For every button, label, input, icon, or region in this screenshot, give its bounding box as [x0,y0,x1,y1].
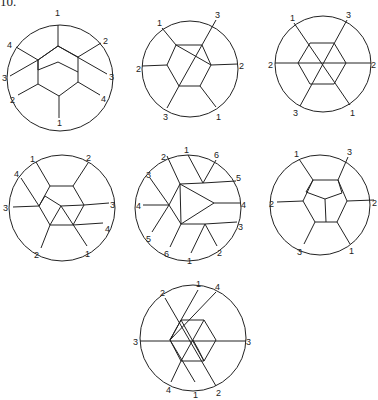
label: 1 [290,13,295,23]
label: 2 [34,250,39,260]
label: 3 [110,200,115,210]
diagram-2: 1 3 2 1 3 2 [136,10,244,122]
label: 1 [294,149,299,159]
label: 1 [157,18,162,28]
diagram-1: 1 2 3 4 1 2 3 4 [2,8,114,131]
diagram-canvas: 1 2 3 4 1 2 3 4 1 3 2 1 3 2 1 3 2 1 [0,0,378,400]
label: 1 [187,256,192,266]
label: 2 [372,198,377,208]
label: 3 [246,337,251,347]
label: 5 [146,234,151,244]
label: 2 [86,153,91,163]
label: 4 [101,94,106,104]
label: 3 [109,72,114,82]
label: 4 [7,40,12,50]
diagram-4: 1 2 3 4 1 2 3 4 [3,153,115,261]
label: 2 [103,36,108,46]
label: 3 [146,170,151,180]
label: 2 [216,388,221,398]
label: 2 [136,64,141,74]
label: 2 [10,95,15,105]
label: 2 [371,60,376,70]
label: 1 [184,145,189,155]
label: 1 [216,112,221,122]
label: 1 [193,390,198,400]
diagram-6: 1 3 2 1 3 2 [269,147,377,257]
label: 1 [85,249,90,259]
label: 3 [347,147,352,157]
label: 1 [57,118,62,128]
label: 1 [196,279,201,289]
label: 2 [217,248,222,258]
diagram-3: 1 3 2 1 3 2 [268,10,376,118]
label: 1 [350,108,355,118]
label: 4 [215,282,220,292]
label: 4 [14,169,19,179]
label: 3 [215,10,220,20]
label: 6 [164,249,169,259]
label: 1 [55,8,60,18]
label: 2 [161,152,166,162]
label: 3 [133,337,138,347]
label: 3 [346,10,351,20]
label: 2 [160,288,165,298]
label: 6 [214,150,219,160]
label: 2 [239,61,244,71]
label: 1 [30,154,35,164]
label: 4 [241,200,246,210]
label: 2 [269,199,274,209]
label: 1 [349,246,354,256]
label: 3 [238,222,243,232]
label: 2 [268,60,273,70]
label: 3 [297,247,302,257]
label: 3 [3,203,8,213]
diagram-7: 1 4 3 2 1 4 3 2 [133,279,251,400]
label: 5 [236,173,241,183]
label: 3 [293,108,298,118]
label: 4 [166,385,171,395]
label: 3 [163,112,168,122]
label: 4 [105,224,110,234]
diagram-5: 1 6 5 4 3 2 1 6 5 4 3 2 [135,145,246,266]
label: 4 [136,201,141,211]
label: 3 [2,73,7,83]
